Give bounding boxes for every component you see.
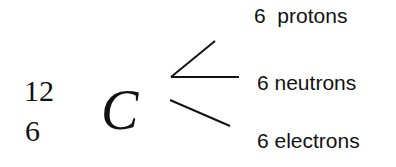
protons-branch-line	[171, 41, 215, 77]
electrons-label: 6 electrons	[257, 130, 360, 151]
protons-label: 6 protons	[254, 5, 347, 26]
neutrons-label: 6 neutrons	[257, 72, 356, 93]
electrons-branch-line	[170, 100, 230, 126]
